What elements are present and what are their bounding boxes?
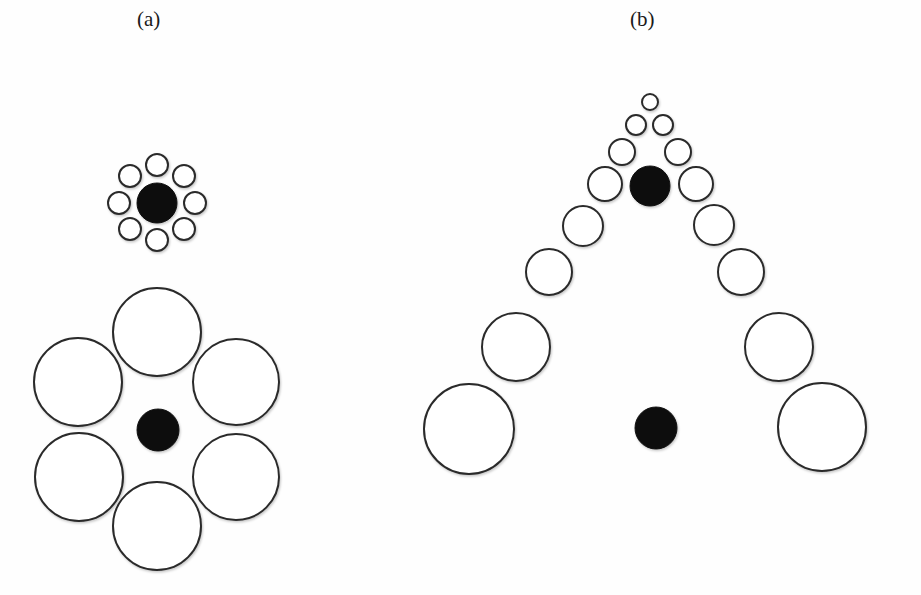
white-inducer-circle bbox=[694, 205, 734, 245]
panel-b-triangle-arrangement bbox=[424, 94, 866, 474]
white-inducer-circle bbox=[146, 154, 168, 176]
white-inducer-circle bbox=[146, 229, 168, 251]
white-inducer-circle bbox=[588, 167, 622, 201]
white-inducer-circle bbox=[193, 339, 279, 425]
black-target-circle bbox=[630, 166, 670, 206]
white-inducer-circle bbox=[679, 167, 713, 201]
white-inducer-circle bbox=[609, 139, 635, 165]
white-inducer-circle bbox=[119, 165, 141, 187]
circles-canvas bbox=[0, 0, 921, 595]
black-target-circle bbox=[635, 407, 677, 449]
white-inducer-circle bbox=[173, 218, 195, 240]
white-inducer-circle bbox=[482, 313, 550, 381]
white-inducer-circle bbox=[526, 249, 572, 295]
white-inducer-circle bbox=[653, 115, 673, 135]
white-inducer-circle bbox=[113, 288, 201, 376]
white-inducer-circle bbox=[665, 139, 691, 165]
illusion-figure: (a) (b) bbox=[0, 0, 921, 595]
white-inducer-circle bbox=[778, 383, 866, 471]
white-inducer-circle bbox=[745, 313, 813, 381]
white-inducer-circle bbox=[424, 384, 514, 474]
white-inducer-circle bbox=[718, 249, 764, 295]
white-inducer-circle bbox=[35, 433, 123, 521]
white-inducer-circle bbox=[193, 434, 279, 520]
black-target-circle bbox=[137, 183, 177, 223]
white-inducer-circle bbox=[34, 338, 122, 426]
panel-a-small-cluster bbox=[108, 154, 206, 251]
white-inducer-circle bbox=[108, 192, 130, 214]
white-inducer-circle bbox=[119, 218, 141, 240]
white-inducer-circle bbox=[113, 482, 201, 570]
white-inducer-circle bbox=[563, 206, 603, 246]
white-inducer-circle bbox=[626, 115, 646, 135]
white-inducer-circle bbox=[173, 165, 195, 187]
black-target-circle bbox=[137, 409, 179, 451]
white-inducer-circle bbox=[184, 192, 206, 214]
panel-a-large-cluster bbox=[34, 288, 279, 570]
white-inducer-circle bbox=[642, 94, 658, 110]
